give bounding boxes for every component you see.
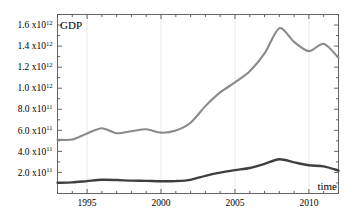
x-tick-label: 2010: [299, 198, 318, 208]
x-axis-label: time: [317, 180, 337, 192]
chart-background: [0, 0, 356, 224]
chart-canvas: 2.0 x10114.0 x10116.0 x10118.0 x10111.0 …: [0, 0, 356, 224]
x-tick-label: 2000: [152, 198, 171, 208]
x-tick-label: 1995: [78, 198, 97, 208]
gdp-line-chart: 2.0 x10114.0 x10116.0 x10118.0 x10111.0 …: [0, 0, 356, 224]
x-tick-label: 2005: [225, 198, 244, 208]
y-axis-label: GDP: [60, 19, 82, 31]
